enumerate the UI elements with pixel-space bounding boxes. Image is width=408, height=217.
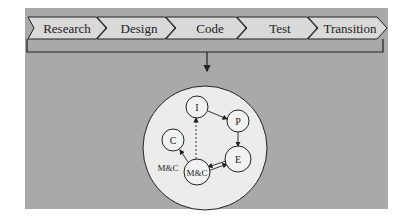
node-label: E [235, 154, 241, 165]
process-diagram: Research Design Code Test Transition I P… [0, 0, 408, 217]
node-label: M&C [186, 168, 207, 178]
phase-label: Research [43, 21, 91, 36]
outer-mc-label: M&C [157, 163, 178, 173]
phase-bracket [27, 39, 383, 52]
phase-label: Transition [324, 21, 377, 36]
node-label: C [170, 135, 177, 146]
phase-label: Code [196, 21, 224, 36]
phase-label: Design [121, 21, 158, 36]
phase-label: Test [269, 21, 291, 36]
node-label: P [235, 116, 241, 127]
node-label: I [195, 102, 198, 113]
